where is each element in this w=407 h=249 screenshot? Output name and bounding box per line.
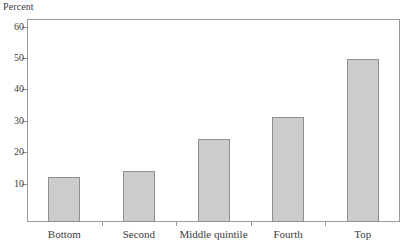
y-axis-caption: Percent [3,1,34,13]
plot-area: 102030405060 [27,19,400,222]
x-axis-category-label: Second [123,227,155,241]
bar [48,177,80,222]
y-axis-tick-label: 60 [14,20,24,33]
bar [272,117,304,222]
bar [198,139,230,222]
x-axis-category-label: Fourth [273,227,302,241]
x-axis-category-label: Middle quintile [179,227,247,241]
y-axis-tick-label: 30 [14,114,24,127]
x-axis-category-label: Bottom [48,227,81,241]
x-axis-category-label: Top [354,227,371,241]
y-axis-tick-label: 10 [14,177,24,190]
bar-chart: Percent 102030405060 BottomSecondMiddle … [0,0,407,249]
bar [123,171,155,222]
x-axis-tick-mark [325,222,326,226]
x-axis-tick-mark [176,222,177,226]
y-axis-tick-label: 20 [14,145,24,158]
y-axis-tick-label: 40 [14,82,24,95]
x-axis-tick-mark [102,222,103,226]
bar [347,59,379,222]
x-axis-tick-mark [251,222,252,226]
y-axis-tick-label: 50 [14,51,24,64]
